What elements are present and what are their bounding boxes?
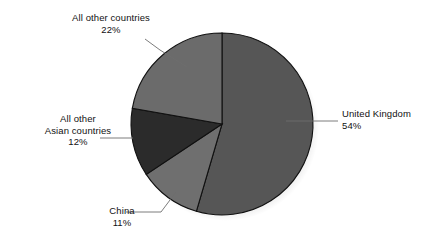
pie-label-all-other-asian-countries-name-line1: All other	[24, 113, 132, 125]
pie-label-china: China 11%	[92, 205, 152, 228]
pie-label-united-kingdom-name: United Kingdom	[342, 108, 434, 120]
pie-label-all-other-asian-countries-value: 12%	[24, 136, 132, 148]
pie-label-united-kingdom-value: 54%	[342, 120, 434, 132]
pie-label-all-other-asian-countries-name-line2: Asian countries	[24, 125, 132, 137]
pie-label-united-kingdom: United Kingdom 54%	[342, 108, 434, 131]
pie-label-china-name: China	[92, 205, 152, 217]
pie-label-all-other-countries-name: All other countries	[56, 12, 166, 24]
pie-label-all-other-asian-countries: All other Asian countries 12%	[24, 113, 132, 148]
pie-label-all-other-countries-value: 22%	[56, 24, 166, 36]
pie-label-all-other-countries: All other countries 22%	[56, 12, 166, 35]
pie-label-china-value: 11%	[92, 217, 152, 229]
pie-chart: All other countries 22% United Kingdom 5…	[0, 0, 435, 241]
pie-slice-all-other-countries[interactable]	[132, 33, 222, 124]
